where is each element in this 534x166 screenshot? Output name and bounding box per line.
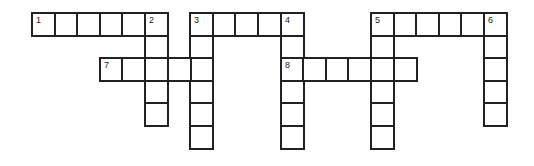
clue-number: 4	[285, 15, 290, 25]
crossword-cell[interactable]	[189, 125, 214, 150]
crossword-cell[interactable]	[393, 57, 418, 82]
crossword-cell[interactable]	[121, 57, 146, 82]
clue-number: 5	[375, 15, 380, 25]
clue-number: 1	[36, 15, 41, 25]
crossword-cell[interactable]	[144, 102, 169, 127]
crossword-cell[interactable]	[234, 12, 259, 37]
crossword-cell[interactable]: 5	[370, 12, 395, 37]
crossword-cell[interactable]	[189, 57, 214, 82]
clue-number: 3	[194, 15, 199, 25]
crossword-grid: 12348567	[0, 0, 534, 166]
clue-number: 2	[149, 15, 154, 25]
clue-number: 7	[104, 60, 109, 70]
clue-number: 8	[285, 60, 290, 70]
crossword-cell[interactable]	[460, 12, 485, 37]
crossword-cell[interactable]: 2	[144, 12, 169, 37]
crossword-cell[interactable]	[483, 102, 508, 127]
crossword-cell[interactable]	[144, 57, 169, 82]
crossword-cell[interactable]: 3	[189, 12, 214, 37]
crossword-cell[interactable]	[167, 57, 192, 82]
crossword-cell[interactable]	[370, 57, 395, 82]
crossword-cell[interactable]: 1	[31, 12, 56, 37]
crossword-cell[interactable]: 6	[483, 12, 508, 37]
crossword-cell[interactable]	[370, 125, 395, 150]
crossword-cell[interactable]	[483, 57, 508, 82]
crossword-cell[interactable]	[280, 102, 305, 127]
crossword-cell[interactable]	[280, 125, 305, 150]
clue-number: 6	[488, 15, 493, 25]
crossword-cell[interactable]: 4	[280, 12, 305, 37]
crossword-cell[interactable]	[257, 12, 282, 37]
crossword-cell[interactable]	[347, 57, 372, 82]
crossword-cell[interactable]	[370, 102, 395, 127]
crossword-cell[interactable]	[189, 102, 214, 127]
crossword-cell[interactable]	[415, 12, 440, 37]
crossword-cell[interactable]	[121, 12, 146, 37]
crossword-cell[interactable]	[76, 12, 101, 37]
crossword-cell[interactable]	[302, 57, 327, 82]
